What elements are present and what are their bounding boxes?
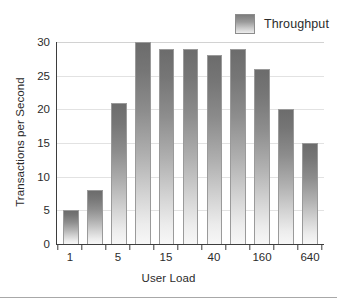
y-axis-title: Transactions per Second (10, 42, 30, 242)
x-axis-tick-label: 40 (208, 251, 221, 263)
x-axis-tick-mark (249, 245, 250, 250)
y-axis-tick-label: 10 (37, 171, 50, 183)
bar-series-throughput (57, 42, 324, 244)
x-axis-tick-mark (57, 245, 58, 250)
x-axis-tick-labels: 151540160640 (56, 251, 324, 267)
bar (278, 109, 294, 244)
gradient-square-swatch-icon (235, 14, 255, 34)
x-axis-tick-mark (201, 245, 202, 250)
plot-area (56, 42, 324, 245)
throughput-bar-chart: Throughput Transactions per Second 05101… (0, 0, 337, 306)
bar-slot (298, 42, 322, 244)
y-axis-tick-labels: 051015202530 (30, 42, 53, 245)
bar (207, 55, 223, 244)
chart-legend: Throughput (235, 14, 329, 34)
bar (159, 49, 175, 244)
x-axis-tick-mark (297, 245, 298, 250)
x-axis-tick-mark (129, 245, 130, 250)
x-axis-tick-label: 15 (160, 251, 173, 263)
bar (63, 210, 79, 244)
x-axis-tick-label: 1 (67, 251, 73, 263)
bar (254, 69, 270, 244)
bar (87, 190, 103, 244)
bar-slot (179, 42, 203, 244)
x-axis-tick-label: 5 (115, 251, 121, 263)
bar-slot (226, 42, 250, 244)
bar (230, 49, 246, 244)
x-axis-tick-label: 160 (252, 251, 271, 263)
x-axis-tick-mark (177, 245, 178, 250)
x-axis-tick-mark (273, 245, 274, 250)
y-axis-title-text: Transactions per Second (14, 77, 26, 207)
y-axis-tick-label: 30 (37, 36, 50, 48)
x-axis-tick-mark (105, 245, 106, 250)
x-axis-tick-mark (321, 245, 322, 250)
bar-slot (250, 42, 274, 244)
bar-slot (59, 42, 83, 244)
x-axis-tick-mark (81, 245, 82, 250)
bar (135, 42, 151, 244)
legend-entry-label: Throughput (264, 17, 329, 31)
bar (183, 49, 199, 244)
bar-slot (107, 42, 131, 244)
x-axis-tick-mark (225, 245, 226, 250)
y-axis-tick-label: 0 (44, 238, 50, 250)
bar (302, 143, 318, 244)
x-axis-tick-mark (153, 245, 154, 250)
bar (111, 103, 127, 244)
bar-slot (131, 42, 155, 244)
x-axis-title: User Load (0, 272, 337, 284)
bar-slot (274, 42, 298, 244)
y-axis-tick-label: 20 (37, 103, 50, 115)
y-axis-tick-label: 5 (44, 204, 50, 216)
y-axis-tick-label: 15 (37, 137, 50, 149)
bottom-divider (0, 297, 337, 298)
x-axis-tick-label: 640 (300, 251, 319, 263)
bar-slot (83, 42, 107, 244)
bar-slot (155, 42, 179, 244)
y-axis-tick-label: 25 (37, 70, 50, 82)
bar-slot (202, 42, 226, 244)
